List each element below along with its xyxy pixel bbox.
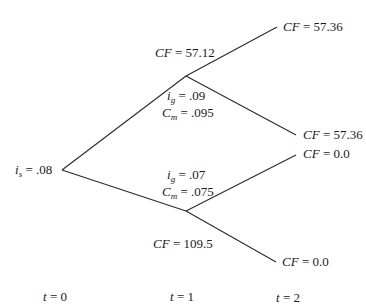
leaf-4-cf-label: CF = 0.0 bbox=[282, 255, 329, 269]
upper-node-cf-label: CF = 57.12 bbox=[155, 46, 215, 60]
root-rate-label: is = .08 bbox=[15, 163, 52, 178]
lower-node-cm-label: Cm = .075 bbox=[162, 185, 214, 200]
branch-down-up bbox=[186, 155, 296, 211]
lower-node-cf-label: CF = 109.5 bbox=[153, 237, 213, 251]
time-label-0: t = 0 bbox=[43, 290, 67, 304]
lower-node-ig-label: ig = .07 bbox=[167, 168, 205, 183]
upper-node-ig-label: ig = .09 bbox=[167, 89, 205, 104]
leaf-1-cf-label: CF = 57.36 bbox=[283, 20, 343, 34]
time-label-2: t = 2 bbox=[276, 291, 300, 305]
time-label-1: t = 1 bbox=[170, 290, 194, 304]
leaf-2-cf-label: CF = 57.36 bbox=[303, 128, 363, 142]
leaf-3-cf-label: CF = 0.0 bbox=[303, 147, 350, 161]
upper-node-cm-label: Cm = .095 bbox=[162, 106, 214, 121]
